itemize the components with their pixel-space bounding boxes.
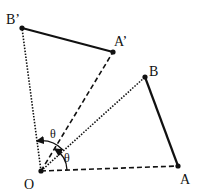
point-o (38, 168, 43, 173)
segment-a-prime-b-prime (22, 28, 113, 52)
segment-ab (145, 77, 178, 166)
segment-oa (41, 166, 178, 171)
label-a: A (180, 172, 191, 187)
label-theta-b: θ (50, 127, 56, 141)
point-b (142, 74, 147, 79)
label-b: B (149, 64, 158, 79)
point-a (175, 163, 180, 168)
segment-ob (41, 77, 145, 171)
segment-oa-prime (41, 52, 113, 171)
segment-ob-prime (22, 28, 41, 171)
label-o: O (24, 177, 34, 192)
rotation-diagram: B’ A’ B A O θ θ (0, 0, 202, 193)
point-b-prime (19, 25, 24, 30)
point-a-prime (110, 49, 115, 54)
label-b-prime: B’ (6, 12, 20, 27)
label-theta-a: θ (64, 151, 70, 165)
label-a-prime: A’ (114, 34, 127, 49)
